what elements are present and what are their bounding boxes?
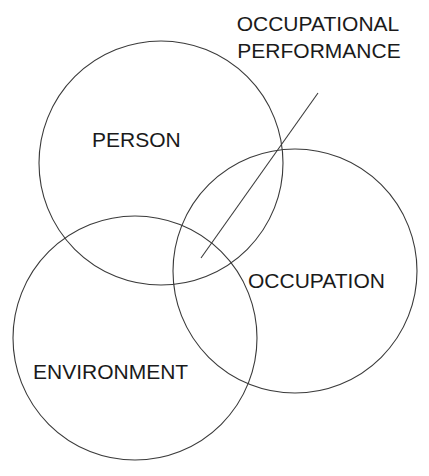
person-circle (39, 41, 283, 285)
environment-circle (13, 216, 257, 460)
environment-label: ENVIRONMENT (33, 360, 188, 383)
occupational-performance-label-line1: OCCUPATIONAL (237, 12, 400, 35)
occupational-performance-label-line2: PERFORMANCE (237, 39, 400, 62)
person-label: PERSON (92, 128, 181, 151)
occupation-label: OCCUPATION (248, 269, 385, 292)
pe-o-venn-diagram: PERSON OCCUPATION ENVIRONMENT OCCUPATION… (0, 0, 429, 476)
